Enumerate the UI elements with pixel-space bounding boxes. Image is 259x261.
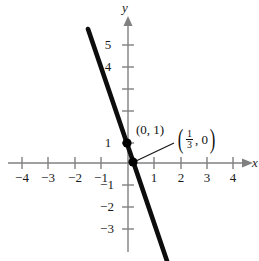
x-axis-label: x — [252, 155, 258, 171]
y-tick-label-neg2: −2 — [96, 199, 118, 215]
coordinate-plane — [0, 0, 259, 261]
fraction-second-coordinate: , 0 — [195, 132, 208, 148]
point-x-intercept — [128, 157, 137, 166]
x-intercept-annotation: ( 1 3 , 0 ) — [176, 126, 217, 153]
y-tick-label-neg1: −1 — [96, 177, 118, 193]
x-tick-label-neg2: −2 — [65, 170, 85, 186]
point-y-intercept — [122, 138, 131, 147]
y-intercept-annotation: (0, 1) — [136, 122, 164, 138]
x-tick-label-pos4: 4 — [225, 170, 241, 186]
fraction-numerator: 1 — [186, 129, 193, 139]
x-tick-label-neg3: −3 — [38, 170, 58, 186]
x-tick-label-pos2: 2 — [173, 170, 189, 186]
graph-figure: y x −4 −3 −2 −1 1 2 3 4 5 4 1 −1 −2 −3 (… — [0, 0, 259, 261]
y-axis-label: y — [122, 0, 128, 16]
y-tick-label-pos5: 5 — [100, 37, 116, 53]
annotation-leader-line — [136, 143, 174, 161]
x-tick-label-pos3: 3 — [199, 170, 215, 186]
y-tick-label-pos1: 1 — [100, 135, 116, 151]
y-tick-label-neg3: −3 — [96, 221, 118, 237]
open-paren: ( — [178, 126, 184, 153]
y-tick-label-pos4: 4 — [100, 59, 116, 75]
x-tick-label-pos1: 1 — [146, 170, 162, 186]
close-paren: ) — [210, 126, 216, 153]
fraction-denominator: 3 — [186, 140, 193, 150]
x-tick-label-neg4: −4 — [12, 170, 32, 186]
fraction-one-third: 1 3 — [186, 129, 193, 151]
